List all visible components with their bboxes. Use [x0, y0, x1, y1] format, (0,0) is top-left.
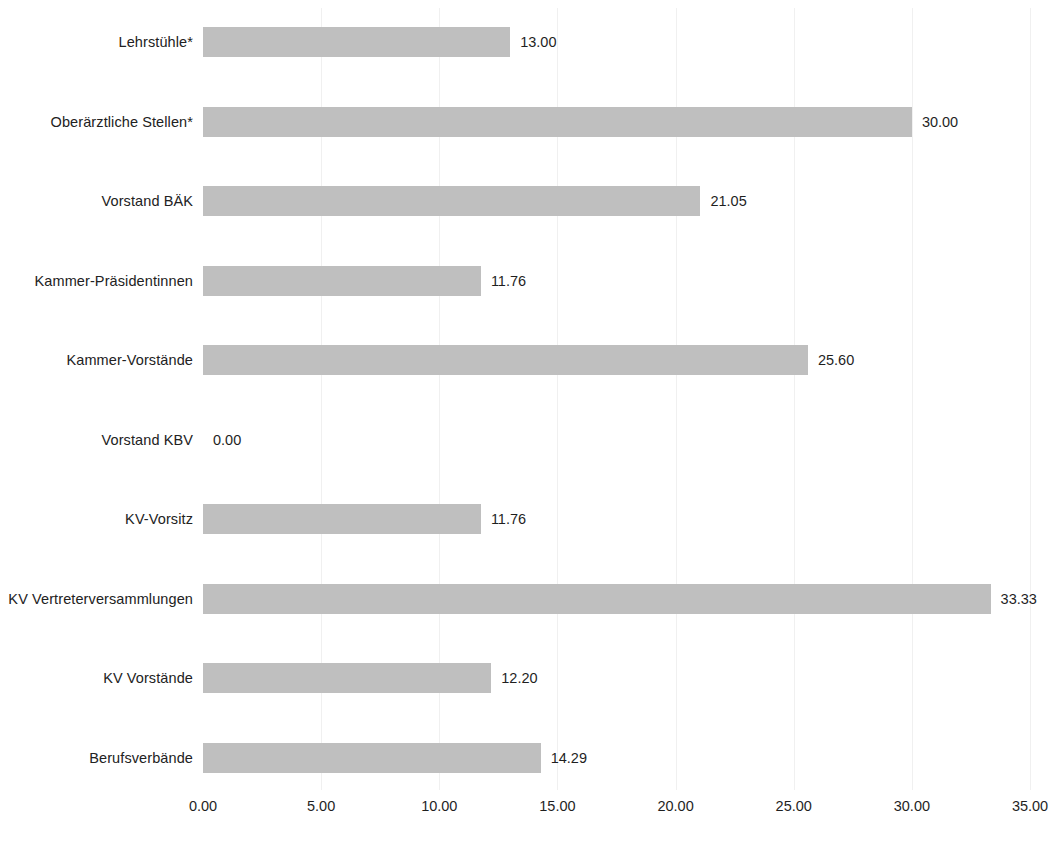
bar[interactable]: [203, 345, 808, 375]
bar-value-label: 14.29: [551, 743, 587, 773]
category-label: Kammer-Präsidentinnen: [0, 266, 193, 296]
bar[interactable]: [203, 27, 510, 57]
category-label: KV-Vorsitz: [0, 504, 193, 534]
category-label: Vorstand KBV: [0, 425, 193, 455]
category-label: Kammer-Vorstände: [0, 345, 193, 375]
bar-value-label: 25.60: [818, 345, 854, 375]
bar[interactable]: [203, 504, 481, 534]
bar-value-label: 33.33: [1001, 584, 1037, 614]
bar-value-label: 30.00: [922, 107, 958, 137]
bar-row: Berufsverbände14.29: [0, 743, 1064, 773]
bar[interactable]: [203, 584, 991, 614]
bar-row: KV Vorstände12.20: [0, 663, 1064, 693]
bar-chart: Lehrstühle*13.00Oberärztliche Stellen*30…: [0, 0, 1064, 850]
bar-row: KV-Vorsitz11.76: [0, 504, 1064, 534]
bar[interactable]: [203, 107, 912, 137]
bar-value-label: 12.20: [501, 663, 537, 693]
bar-value-label: 13.00: [520, 27, 556, 57]
bar-row: Kammer-Präsidentinnen11.76: [0, 266, 1064, 296]
x-tick-label: 25.00: [776, 795, 812, 817]
x-tick-label: 5.00: [307, 795, 335, 817]
plot-area: Lehrstühle*13.00Oberärztliche Stellen*30…: [0, 0, 1064, 790]
bar-row: Kammer-Vorstände25.60: [0, 345, 1064, 375]
bar-value-label: 11.76: [491, 504, 526, 534]
category-label: Oberärztliche Stellen*: [0, 107, 193, 137]
bar-value-label: 21.05: [710, 186, 746, 216]
x-tick-label: 20.00: [657, 795, 693, 817]
bar-value-label: 0.00: [213, 425, 241, 455]
bar[interactable]: [203, 743, 541, 773]
category-label: KV Vertreterversammlungen: [0, 584, 193, 614]
x-tick-label: 15.00: [539, 795, 575, 817]
category-label: Vorstand BÄK: [0, 186, 193, 216]
x-tick-label: 10.00: [421, 795, 457, 817]
bar-row: Vorstand KBV0.00: [0, 425, 1064, 455]
bar-row: Lehrstühle*13.00: [0, 27, 1064, 57]
category-label: Lehrstühle*: [0, 27, 193, 57]
bar-row: KV Vertreterversammlungen33.33: [0, 584, 1064, 614]
x-tick-label: 35.00: [1012, 795, 1048, 817]
bar[interactable]: [203, 186, 700, 216]
category-label: Berufsverbände: [0, 743, 193, 773]
bar-row: Oberärztliche Stellen*30.00: [0, 107, 1064, 137]
bar-row: Vorstand BÄK21.05: [0, 186, 1064, 216]
x-tick-label: 30.00: [894, 795, 930, 817]
x-tick-label: 0.00: [189, 795, 217, 817]
bar[interactable]: [203, 266, 481, 296]
x-axis: 0.005.0010.0015.0020.0025.0030.0035.00: [0, 795, 1064, 825]
bar[interactable]: [203, 663, 491, 693]
category-label: KV Vorstände: [0, 663, 193, 693]
bar-value-label: 11.76: [491, 266, 526, 296]
